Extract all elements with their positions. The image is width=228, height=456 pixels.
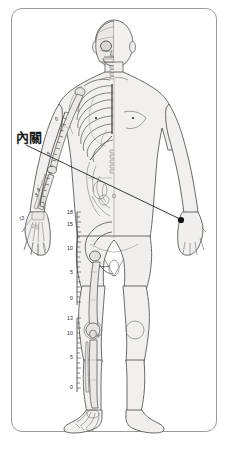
thigh-tick-18: 18 [67,209,73,215]
thigh-tick-10: 10 [67,245,73,251]
skull-half [96,21,114,66]
lowerleg-tick-5: 5 [70,354,73,360]
thigh-tick-0: 0 [70,295,73,301]
human-body-figure [0,0,228,456]
lowerleg-tick-0: 0 [70,384,73,390]
lowerleg-tick-13: 13 [67,315,73,321]
acupoint-label: 內關 [16,131,42,145]
thigh-tick-5: 5 [70,269,73,275]
acupuncture-chart: 內關 0 5 9 5 12 18 15 10 5 0 13 10 5 0 [0,0,228,456]
lowerleg-tick-10: 10 [67,330,73,336]
thigh-tick-15: 15 [67,221,73,227]
patella [90,330,97,338]
body-silhouette [22,20,206,433]
acupoint-dot[interactable] [178,217,184,223]
